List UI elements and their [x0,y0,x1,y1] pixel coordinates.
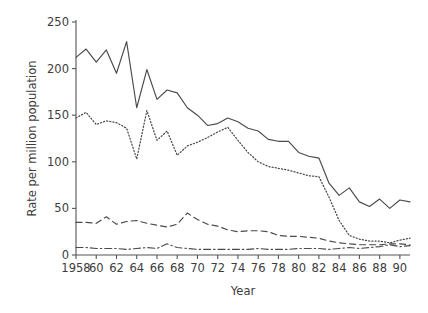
x-tick-label: 70 [190,261,205,275]
y-tick-label: 100 [47,155,69,169]
x-tick-label: 1958 [61,261,90,275]
x-axis-ticks: 195860626466687072747678808284868890 [61,255,407,275]
series-dotted [76,111,410,243]
x-tick-label: 84 [332,261,347,275]
line-chart: 050100150200250 195860626466687072747678… [0,0,428,313]
x-tick-label: 74 [231,261,246,275]
y-axis-title: Rate per million population [25,61,39,217]
x-tick-label: 90 [393,261,408,275]
x-tick-label: 60 [89,261,104,275]
x-tick-label: 86 [352,261,367,275]
y-tick-label: 150 [47,108,69,122]
x-tick-label: 66 [150,261,165,275]
x-tick-label: 88 [372,261,387,275]
x-tick-label: 64 [129,261,144,275]
y-tick-label: 50 [54,201,69,215]
x-tick-label: 82 [312,261,327,275]
x-tick-label: 62 [109,261,124,275]
series-solid [76,42,410,209]
x-tick-label: 68 [170,261,185,275]
y-axis-ticks: 050100150200250 [47,15,76,262]
chart-figure: 050100150200250 195860626466687072747678… [0,0,428,313]
y-tick-label: 0 [62,248,69,262]
x-tick-label: 72 [210,261,225,275]
x-axis-title: Year [230,284,256,298]
x-tick-label: 80 [291,261,306,275]
y-tick-label: 200 [47,62,69,76]
series-dashed [76,213,410,245]
data-series-group [76,42,410,250]
x-tick-label: 78 [271,261,286,275]
x-tick-label: 76 [251,261,266,275]
y-tick-label: 250 [47,15,69,29]
